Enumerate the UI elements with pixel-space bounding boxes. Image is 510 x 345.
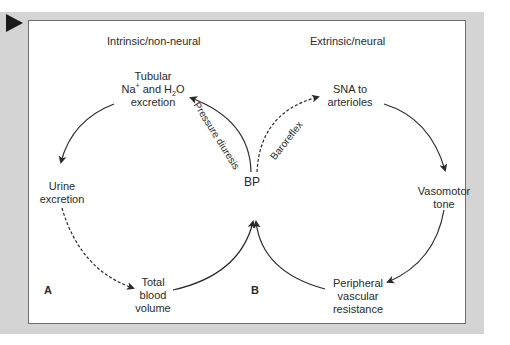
node-sna-arterioles: SNA to arterioles	[320, 83, 380, 109]
node-peripheral-vascular-resistance: Peripheral vascular resistance	[326, 277, 390, 316]
arrow-tubular-to-urine	[61, 104, 114, 162]
node-bp: BP	[244, 176, 260, 189]
node-tubular-excretion: Tubular Na+ and H2O excretion	[118, 70, 188, 109]
arrow-pvr-to-bp	[256, 222, 325, 289]
node-urine-excretion: Urine excretion	[36, 180, 88, 206]
header-extrinsic: Extrinsic/neural	[310, 35, 385, 48]
arrow-vasomotor-to-pvr	[388, 210, 444, 282]
arrow-volume-to-bp	[173, 222, 253, 290]
arrow-urine-to-volume	[62, 208, 133, 288]
header-intrinsic: Intrinsic/non-neural	[107, 35, 201, 48]
panel-label-a: A	[44, 284, 52, 297]
arrow-sna-to-vasomotor	[384, 104, 445, 170]
node-vasomotor-tone: Vasomotor tone	[412, 185, 476, 211]
panel-label-b: B	[251, 284, 259, 297]
node-total-blood-volume: Total blood volume	[132, 276, 174, 315]
